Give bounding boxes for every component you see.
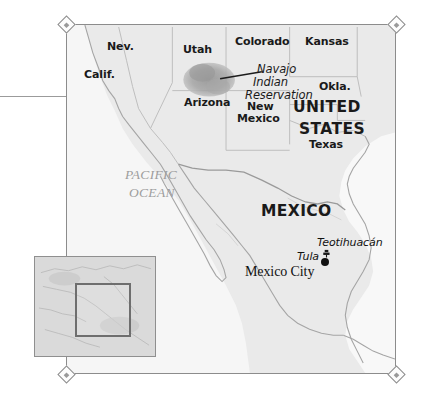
country-label-mexico: MEXICO (261, 203, 332, 219)
left-margin-rule (0, 96, 68, 97)
reservation-label-line2: Indian (253, 76, 288, 88)
navajo-reservation-area-core (189, 64, 215, 82)
city-dot-mexico-city (321, 258, 329, 266)
ocean-label-line2: OCEAN (129, 185, 175, 201)
inset-locator-map (34, 256, 156, 357)
country-label-united-states-line2: STATES (299, 121, 365, 137)
ocean-label-line1: PACIFIC (125, 167, 177, 183)
place-label-tula: Tula (297, 251, 319, 263)
reservation-label-line1: Navajo (257, 63, 296, 75)
navajo-reservation-area-lobe (206, 79, 230, 95)
place-label-mexico-city: Mexico City (245, 265, 314, 280)
pyramid-icon (322, 249, 331, 258)
state-label-new-mexico-line1: New (247, 101, 274, 113)
place-label-teotihuacan: Teotihuacán (317, 237, 383, 249)
state-label-texas: Texas (309, 139, 343, 151)
state-label-new-mexico-line2: Mexico (237, 113, 280, 125)
state-label-arizona: Arizona (184, 97, 230, 109)
reservation-label-line3: Reservation (245, 89, 313, 101)
state-label-kansas: Kansas (305, 36, 349, 48)
state-label-colorado: Colorado (235, 36, 289, 48)
state-label-oklahoma: Okla. (319, 81, 351, 93)
inset-highlight-box (75, 283, 131, 337)
state-label-utah: Utah (183, 44, 212, 56)
map-figure: Nev. Calif. Utah Colorado Kansas Okla. A… (0, 0, 430, 408)
state-label-california: Calif. (84, 69, 115, 81)
state-label-nevada: Nev. (107, 41, 134, 53)
